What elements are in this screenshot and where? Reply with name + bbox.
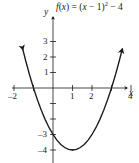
y-tick-label-3: 3: [43, 37, 48, 46]
parabola-curve-right-branch: [73, 49, 123, 150]
equation-minus-four: − 4: [108, 2, 123, 12]
x-tick-label-2: 2: [89, 92, 94, 101]
parabola-curve-left-branch: [23, 49, 73, 150]
x-tick-label-neg2: –2: [8, 92, 17, 101]
y-tick-label-2: 2: [43, 53, 48, 62]
parabola-graph-figure: f(x) = (x − 1)2 − 4 y x –2 1 2 4 3 2 1 –…: [0, 0, 139, 163]
x-tick-label-4: 4: [128, 92, 133, 101]
y-tick-label-neg3: –3: [38, 130, 47, 139]
equation-equals: = (: [69, 2, 82, 12]
y-axis-label: y: [44, 8, 48, 18]
equation-minus-one: − 1): [87, 2, 105, 12]
graph-canvas: [0, 0, 139, 163]
equation-label: f(x) = (x − 1)2 − 4: [56, 2, 123, 12]
y-tick-label-neg4: –4: [38, 146, 47, 155]
x-tick-label-1: 1: [70, 92, 75, 101]
y-tick-label-1: 1: [44, 68, 49, 77]
